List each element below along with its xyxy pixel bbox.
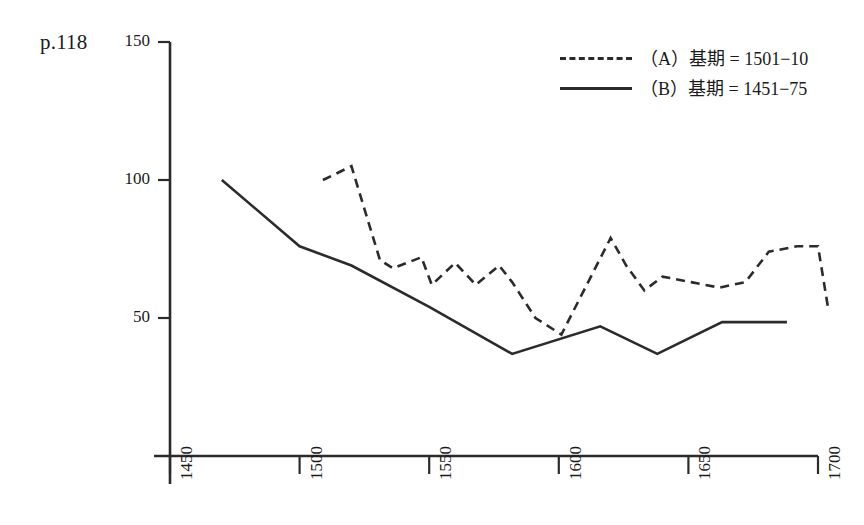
series-line-b [222, 180, 787, 354]
legend-label-a: （A）基期 = 1501−10 [640, 44, 808, 70]
y-axis-tick-label: 50 [90, 307, 150, 327]
legend-entry-a: （A）基期 = 1501−10 [560, 42, 808, 72]
chart-legend: （A）基期 = 1501−10 （B）基期 = 1451−75 [560, 42, 808, 102]
x-axis-tick-label: 1600 [566, 446, 586, 480]
legend-swatch-solid-icon [560, 81, 632, 93]
x-axis-tick-label: 1500 [307, 446, 327, 480]
y-axis-tick-label: 100 [90, 169, 150, 189]
series-line-a [323, 166, 828, 334]
legend-label-b: （B）基期 = 1451−75 [640, 74, 807, 100]
x-axis-tick-label: 1450 [177, 446, 197, 480]
x-axis-tick-label: 1550 [436, 446, 456, 480]
chart-axes [154, 42, 818, 484]
legend-entry-b: （B）基期 = 1451−75 [560, 72, 808, 102]
chart-root: p.118 50100150 145015001550160016501700 … [0, 0, 864, 525]
x-axis-tick-label: 1650 [695, 446, 715, 480]
chart-series [222, 166, 829, 354]
x-axis-tick-label: 1700 [825, 446, 845, 480]
y-axis-tick-label: 150 [90, 31, 150, 51]
legend-swatch-dashed-icon [560, 51, 632, 63]
